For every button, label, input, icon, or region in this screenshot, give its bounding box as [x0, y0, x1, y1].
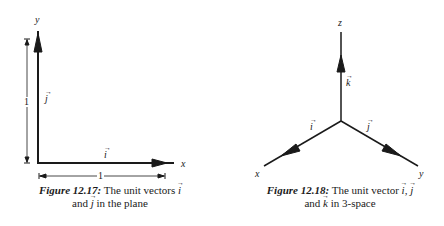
y-axis-label: y: [35, 15, 39, 25]
figure-12-17-drawing: [24, 31, 174, 179]
figure-number: Figure 12.18:: [267, 184, 329, 196]
j-arrowhead-3d-icon: [382, 144, 401, 156]
figure-12-18-drawing: [264, 32, 418, 166]
j-vector-label: j: [45, 94, 48, 104]
i-arrowhead-icon: [152, 159, 167, 167]
k-vector-label: k: [346, 78, 350, 88]
z-axis-label-3d: z: [338, 18, 342, 28]
vertical-dimension-value: 1: [23, 97, 30, 107]
figure-12-17-caption: Figure 12.17: The unit vectors i and j i…: [10, 184, 210, 210]
i-vector-label: i: [104, 150, 107, 160]
x-axis-label-3d: x: [255, 169, 259, 179]
y-axis-label-3d: y: [419, 169, 423, 179]
x-axis-label: x: [181, 159, 185, 169]
k-arrowhead-icon: [337, 55, 345, 72]
horizontal-dimension-value: 1: [97, 171, 104, 181]
figure-12-18-caption: Figure 12.18: The unit vector i, j and k…: [240, 184, 440, 210]
j-arrowhead-icon: [34, 33, 42, 52]
i-vector-label-3d: i: [310, 122, 313, 132]
j-vector-label-3d: j: [367, 122, 370, 132]
y-axis-line-3d: [341, 121, 418, 166]
x-axis-line-3d: [264, 121, 341, 166]
i-arrowhead-3d-icon: [281, 144, 300, 156]
